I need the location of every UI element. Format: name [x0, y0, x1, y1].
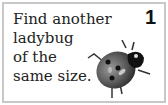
instruction-text: Find another ladybug of the same size. — [13, 10, 93, 86]
ladybug-icon — [82, 40, 154, 102]
instruction-line-4: same size. — [13, 67, 93, 86]
instruction-line-1: Find another — [13, 10, 93, 29]
instruction-line-2: ladybug — [13, 29, 93, 48]
card-number: 1 — [145, 6, 156, 29]
task-card: Find another ladybug of the same size. 1 — [2, 2, 166, 103]
instruction-line-3: of the — [13, 48, 93, 67]
